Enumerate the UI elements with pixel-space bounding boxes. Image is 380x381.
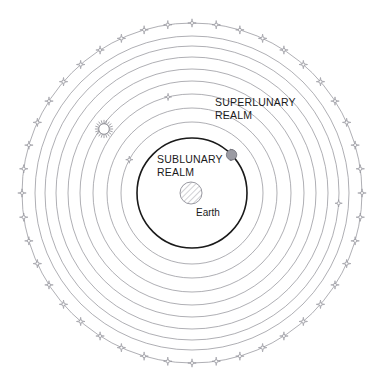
fixed-star-core <box>36 121 39 124</box>
fixed-star-core <box>99 48 102 51</box>
superlunary-realm-label-line1: SUPERLUNARY <box>215 96 296 108</box>
fixed-star-core <box>215 360 218 363</box>
fixed-star-core <box>27 239 30 242</box>
fixed-star-core <box>282 335 285 338</box>
fixed-star-core <box>345 121 348 124</box>
fixed-star-core <box>345 262 348 265</box>
fixed-star-core <box>359 216 362 219</box>
superlunary-realm-label-line2: REALM <box>215 109 252 121</box>
fixed-star-core <box>261 37 264 40</box>
fixed-star-core <box>302 320 305 323</box>
fixed-star-core <box>22 216 25 219</box>
fixed-star-core <box>361 192 364 195</box>
fixed-star-core <box>282 48 285 51</box>
fixed-star-core <box>319 80 322 83</box>
sublunary-realm-label-line2: REALM <box>157 166 194 178</box>
fixed-star-core <box>47 100 50 103</box>
fixed-star-core <box>79 63 82 66</box>
moon-icon <box>226 149 236 160</box>
fixed-star-core <box>21 192 24 195</box>
fixed-star-core <box>99 335 102 338</box>
fixed-star-core <box>62 303 65 306</box>
fixed-star-core <box>191 22 194 25</box>
fixed-star-core <box>143 28 146 31</box>
fixed-star-core <box>143 355 146 358</box>
planet-marker-2-core <box>167 96 170 99</box>
fixed-star-core <box>62 80 65 83</box>
fixed-star-core <box>166 360 169 363</box>
fixed-star-core <box>334 283 337 286</box>
fixed-star-core <box>27 144 30 147</box>
sublunary-realm-label-line1: SUBLUNARY <box>157 153 223 165</box>
fixed-star-core <box>238 28 241 31</box>
sun-body <box>99 124 110 135</box>
fixed-star-core <box>334 100 337 103</box>
fixed-star-core <box>261 346 264 349</box>
fixed-star-core <box>120 37 123 40</box>
fixed-star-core <box>302 63 305 66</box>
earth-label: Earth <box>196 207 220 218</box>
fixed-star-core <box>354 144 357 147</box>
fixed-star-core <box>354 239 357 242</box>
ptolemaic-cosmos-diagram: SUPERLUNARY REALM SUBLUNARY REALM Earth <box>0 0 380 381</box>
fixed-star-core <box>120 346 123 349</box>
fixed-star-core <box>191 362 194 365</box>
fixed-star-core <box>47 283 50 286</box>
fixed-star-core <box>22 167 25 170</box>
moon-disc <box>226 150 236 160</box>
earth-body <box>180 182 202 204</box>
fixed-star-core <box>238 355 241 358</box>
fixed-star-core <box>319 303 322 306</box>
fixed-star-core <box>166 23 169 26</box>
fixed-star-core <box>359 167 362 170</box>
fixed-star-core <box>79 320 82 323</box>
fixed-star-core <box>215 23 218 26</box>
planet-marker-1-core <box>128 158 131 161</box>
planet-marker-3-core <box>337 202 340 205</box>
fixed-star-core <box>36 262 39 265</box>
